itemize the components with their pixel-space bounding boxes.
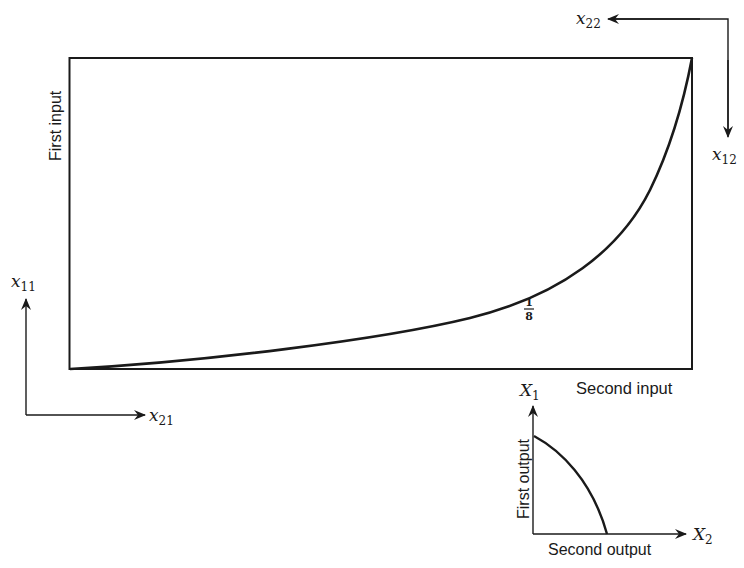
X1-label: X1 (518, 380, 540, 403)
output-possibility-frontier: X1 X2 First output Second output (515, 380, 713, 558)
origin-consumer-2-axes: x22 x12 (576, 8, 737, 167)
fraction-denominator: 8 (525, 310, 533, 323)
contract-curve (70, 58, 692, 369)
first-output-label: First output (515, 438, 532, 519)
x21-label: x21 (149, 405, 174, 428)
origin-consumer-1-axes: x11 x21 (11, 271, 174, 428)
edgeworth-box-frame (70, 58, 693, 369)
second-output-label: Second output (548, 541, 652, 558)
x22-label: x22 (576, 8, 601, 31)
first-input-label: First input (47, 90, 64, 161)
fraction-numerator: 1 (525, 296, 533, 309)
edgeworth-box-diagram: 1 8 First input Second input x11 x21 x22… (0, 0, 744, 568)
x12-label: x12 (712, 144, 737, 167)
frontier-curve (534, 436, 607, 534)
x11-label: x11 (11, 271, 36, 294)
second-input-label: Second input (576, 379, 673, 397)
curve-fraction-label: 1 8 (524, 296, 534, 323)
x22-x12-axes (609, 19, 728, 136)
X2-label: X2 (691, 524, 713, 547)
